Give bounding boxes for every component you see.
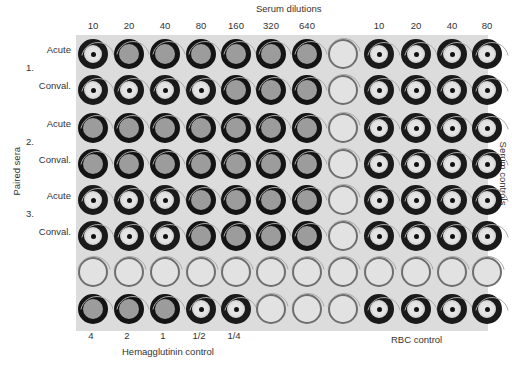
well-mat: [221, 113, 251, 143]
well-mat: [221, 149, 251, 179]
group-label: 1.: [26, 62, 34, 73]
well-button: [472, 221, 502, 251]
well-button: [472, 113, 502, 143]
well-button: [150, 75, 180, 105]
well-mat: [78, 149, 108, 179]
well-empty: [364, 257, 394, 287]
well-mat: [292, 75, 322, 105]
well-mat: [221, 221, 251, 251]
well-button: [78, 221, 108, 251]
well-empty: [437, 257, 467, 287]
column-label: 40: [145, 20, 185, 31]
well-mat: [256, 39, 286, 69]
hemagglutinin-value: 1/2: [184, 330, 214, 341]
well-button: [437, 75, 467, 105]
hemagglutinin-value: 2: [112, 330, 142, 341]
well-mat: [256, 75, 286, 105]
group-label: 3.: [26, 208, 34, 219]
well-mat: [292, 39, 322, 69]
hemagglutinin-value: 1: [148, 330, 178, 341]
well-mat: [114, 39, 144, 69]
well-button: [186, 294, 216, 324]
well-button: [437, 113, 467, 143]
well-empty: [78, 257, 108, 287]
well-mat: [292, 221, 322, 251]
well-empty: [401, 257, 431, 287]
well-button: [401, 221, 431, 251]
well-button: [114, 75, 144, 105]
well-mat: [78, 113, 108, 143]
well-mat: [256, 221, 286, 251]
column-label: 10: [359, 20, 399, 31]
well-empty: [328, 113, 358, 143]
microtiter-plate: [76, 35, 488, 331]
column-label: 40: [432, 20, 472, 31]
well-mat: [186, 221, 216, 251]
well-empty: [221, 257, 251, 287]
row-label: Acute: [15, 118, 71, 129]
well-button: [114, 221, 144, 251]
column-label: 20: [396, 20, 436, 31]
well-button: [472, 294, 502, 324]
well-button: [78, 185, 108, 215]
well-button: [221, 294, 251, 324]
well-empty: [328, 185, 358, 215]
well-empty: [256, 294, 286, 324]
well-mat: [256, 113, 286, 143]
well-empty: [328, 39, 358, 69]
well-mat: [186, 185, 216, 215]
column-label: 20: [109, 20, 149, 31]
well-button: [401, 149, 431, 179]
well-mat: [186, 39, 216, 69]
well-empty: [292, 257, 322, 287]
well-button: [114, 185, 144, 215]
row-label: Conval.: [15, 226, 71, 237]
well-mat: [150, 294, 180, 324]
paired-sera-label: Paired sera: [11, 152, 22, 196]
well-button: [437, 185, 467, 215]
well-mat: [150, 113, 180, 143]
hemagglutinin-value: 4: [76, 330, 106, 341]
well-empty: [328, 75, 358, 105]
hemagglutinin-value: 1/4: [219, 330, 249, 341]
well-mat: [114, 113, 144, 143]
row-label: Conval.: [15, 154, 71, 165]
well-button: [472, 75, 502, 105]
well-button: [364, 294, 394, 324]
well-mat: [221, 185, 251, 215]
well-empty: [114, 257, 144, 287]
group-label: 2.: [26, 136, 34, 147]
well-button: [364, 113, 394, 143]
well-button: [472, 185, 502, 215]
column-label: 320: [251, 20, 291, 31]
well-button: [364, 149, 394, 179]
well-mat: [78, 294, 108, 324]
well-mat: [292, 185, 322, 215]
well-mat: [292, 149, 322, 179]
well-mat: [221, 75, 251, 105]
well-button: [472, 149, 502, 179]
column-label: 160: [216, 20, 256, 31]
row-label: Acute: [15, 190, 71, 201]
well-mat: [150, 149, 180, 179]
row-label: Acute: [15, 44, 71, 55]
well-button: [401, 113, 431, 143]
well-mat: [256, 149, 286, 179]
well-button: [401, 185, 431, 215]
well-empty: [186, 257, 216, 287]
well-empty: [328, 294, 358, 324]
well-mat: [186, 149, 216, 179]
well-empty: [472, 257, 502, 287]
well-button: [472, 39, 502, 69]
well-empty: [150, 257, 180, 287]
well-empty: [328, 221, 358, 251]
well-button: [401, 75, 431, 105]
column-label: 80: [467, 20, 507, 31]
column-label: 640: [287, 20, 327, 31]
well-button: [401, 39, 431, 69]
well-button: [186, 75, 216, 105]
well-button: [364, 221, 394, 251]
well-button: [364, 39, 394, 69]
well-mat: [292, 113, 322, 143]
row-label: Conval.: [15, 80, 71, 91]
